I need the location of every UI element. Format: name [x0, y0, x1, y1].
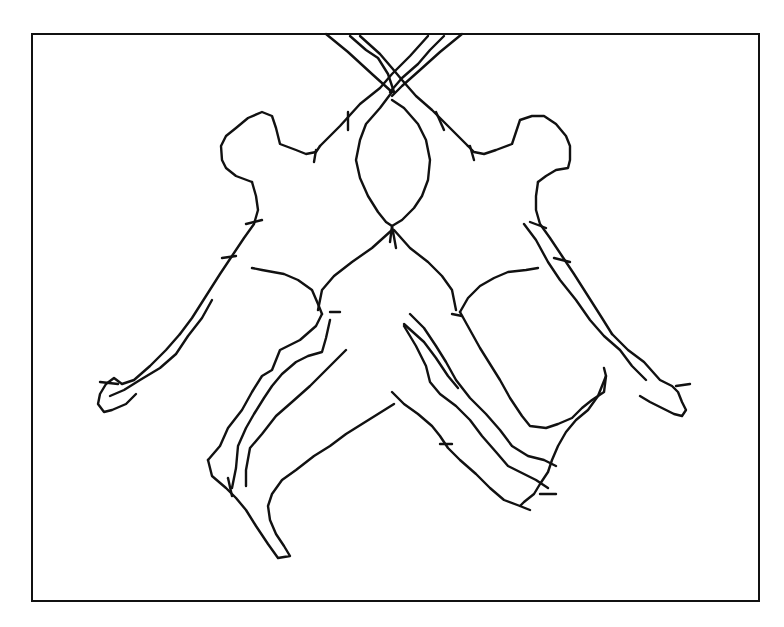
left-figure-hand: [98, 334, 180, 412]
left-figure-raised-arm-inner: [390, 36, 444, 92]
joint-marker: [554, 258, 570, 262]
left-figure-hand-thumb: [100, 382, 118, 384]
left-figure-leg-second: [246, 350, 346, 486]
left-figure-torso: [252, 268, 322, 314]
silhouette-drawing: [0, 0, 784, 627]
right-figure-leg-second: [410, 314, 556, 466]
right-silhouette: [360, 36, 690, 510]
left-figure-foot: [208, 404, 394, 558]
joint-marker: [222, 256, 236, 258]
right-figure-foot-tip: [520, 376, 606, 506]
joint-markers: [222, 112, 570, 494]
right-figure-arm-lower: [524, 224, 646, 380]
center-torso-left: [318, 230, 392, 310]
left-figure-head: [221, 112, 320, 182]
center-torso-right: [394, 230, 456, 310]
left-figure-leg-outer: [208, 314, 322, 460]
left-silhouette: [98, 36, 444, 558]
center-neck-cross: [390, 226, 396, 248]
center-head-outline: [356, 92, 430, 226]
right-figure-hand-thumb: [676, 384, 690, 386]
right-figure-hand: [612, 334, 686, 416]
left-figure-left-arm-upper: [180, 182, 258, 334]
right-figure-head: [468, 116, 570, 182]
right-figure-leg-inner: [404, 326, 548, 488]
joint-marker: [530, 222, 546, 228]
right-figure-torso: [460, 268, 538, 312]
right-figure-diagonal: [404, 324, 458, 388]
right-figure-arm-upper: [536, 182, 612, 334]
left-figure-left-arm-lower: [110, 300, 212, 396]
